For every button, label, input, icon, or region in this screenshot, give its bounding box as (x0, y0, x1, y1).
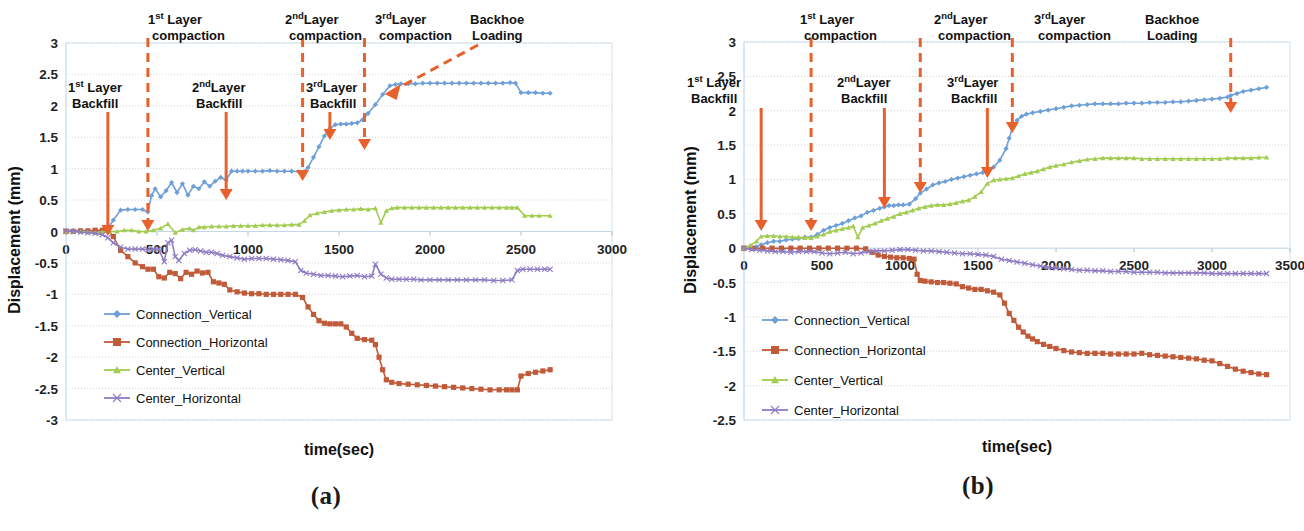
x-axis-tick-label: 1000 (233, 242, 263, 257)
annotation-ordinal: 2 (837, 75, 844, 90)
data-point-marker (140, 264, 145, 269)
data-point-marker (344, 324, 349, 329)
y-axis-tick-label: -0.5 (35, 256, 59, 271)
y-axis-tick-label: -3 (46, 413, 58, 428)
data-point-marker (1053, 346, 1058, 351)
data-point-marker (1047, 344, 1052, 349)
annotation-label-line1: Backhoe (470, 12, 524, 27)
x-axis-title: time(sec) (304, 441, 374, 458)
data-point-marker (156, 274, 161, 279)
x-axis-tick-label: 1500 (324, 242, 354, 257)
x-axis-tick-label: 3000 (597, 242, 627, 257)
data-point-marker (997, 292, 1002, 297)
y-axis-tick-label: -2.5 (713, 413, 737, 428)
annotation-ordinal: 1 (68, 80, 75, 95)
data-point-marker (1085, 351, 1090, 356)
data-point-marker (1139, 351, 1144, 356)
annotation-label-line1: 1st Layer (800, 10, 854, 28)
data-point-marker (907, 256, 912, 261)
data-point-marker (380, 367, 385, 372)
annotation-ordinal: 3 (375, 12, 382, 27)
data-point-marker (515, 387, 520, 392)
annotation-label-line1: 2ndLayer (934, 10, 988, 28)
data-point-marker (901, 255, 906, 260)
data-point-marker (178, 276, 183, 281)
data-point-marker (918, 278, 923, 283)
data-point-marker (469, 386, 474, 391)
data-point-marker (1209, 358, 1214, 363)
annotation-label-line2: compaction (289, 28, 362, 43)
data-point-marker (826, 246, 831, 251)
legend-item-0[interactable] (100, 305, 300, 323)
data-point-marker (533, 370, 538, 375)
data-point-marker (211, 279, 216, 284)
legend-item-2[interactable] (758, 371, 958, 389)
data-point-marker (1264, 372, 1269, 377)
data-point-marker (293, 292, 298, 297)
annotation-label-line2: Loading (1147, 28, 1198, 43)
annotation-label-line2: Loading (472, 28, 523, 43)
y-axis-tick-label: -0.5 (713, 276, 737, 291)
data-point-marker (1025, 334, 1030, 339)
annotation-label-line2: compaction (1038, 28, 1111, 43)
data-point-marker (249, 291, 254, 296)
legend-item-1[interactable] (100, 333, 300, 351)
data-point-marker (1194, 356, 1199, 361)
data-point-marker (133, 260, 138, 265)
figure-panel-a: 32.521.510.50-0.5-1-1.5-2-2.5-3050010001… (0, 0, 652, 531)
y-axis-tick-label: -1 (46, 287, 58, 302)
data-point-marker (1011, 318, 1016, 323)
y-axis-title: Displacement (mm) (6, 166, 23, 314)
y-axis-tick-label: 1 (50, 162, 58, 177)
data-point-marker (311, 312, 316, 317)
data-point-marker (1030, 336, 1035, 341)
annotation-ordinal-suffix: nd (292, 10, 304, 21)
data-point-marker (816, 246, 821, 251)
chart-b-svg: 32.521.510.50-0.5-1-1.5-2-2.505001000150… (652, 0, 1304, 470)
annotation-label-text: Layer (1051, 12, 1086, 27)
y-axis-tick-label: -1.5 (35, 319, 59, 334)
data-point-marker (451, 385, 456, 390)
data-point-marker (966, 285, 971, 290)
data-point-marker (305, 304, 310, 309)
annotation-ordinal-suffix: nd (844, 73, 856, 84)
data-point-marker (396, 381, 401, 386)
data-point-marker (1016, 325, 1021, 330)
data-point-marker (954, 281, 959, 286)
annotation-label-line2: Backfill (841, 91, 887, 106)
annotation-label-line2: compaction (938, 28, 1011, 43)
x-axis-tick-label: 1500 (963, 258, 993, 273)
annotation-label-line2: Backfill (310, 96, 356, 111)
data-point-marker (216, 280, 221, 285)
annotation-label-text: Layer (392, 12, 427, 27)
annotation-label-line2: compaction (379, 28, 452, 43)
legend-item-3[interactable] (100, 389, 300, 407)
annotation-label-line2: Backfill (691, 91, 737, 106)
data-point-marker (548, 367, 553, 372)
data-point-marker (478, 387, 483, 392)
x-axis-title: time(sec) (982, 438, 1052, 455)
y-axis-tick-label: -2 (724, 379, 736, 394)
y-axis-tick-label: -2.5 (35, 382, 59, 397)
data-point-marker (1248, 370, 1253, 375)
data-point-marker (1061, 348, 1066, 353)
annotation-ordinal: 1 (148, 12, 155, 27)
data-point-marker (1155, 353, 1160, 358)
legend-item-2[interactable] (100, 361, 300, 379)
data-point-marker (1163, 353, 1168, 358)
data-point-marker (189, 272, 194, 277)
data-point-marker (935, 280, 940, 285)
annotation-ordinal-suffix: rd (1041, 10, 1051, 21)
legend-item-0[interactable] (758, 311, 958, 329)
data-point-marker (300, 295, 305, 300)
data-point-marker (234, 289, 239, 294)
annotation-ordinal-suffix: rd (313, 78, 323, 89)
legend-item-3[interactable] (758, 401, 958, 419)
annotation-label-text: Layer (964, 75, 999, 90)
annotation-label-line1: 2ndLayer (285, 10, 339, 28)
legend-item-1[interactable] (758, 341, 958, 359)
data-point-marker (406, 382, 411, 387)
data-point-marker (264, 292, 269, 297)
data-point-marker (362, 337, 367, 342)
annotation-ordinal: 3 (947, 75, 954, 90)
